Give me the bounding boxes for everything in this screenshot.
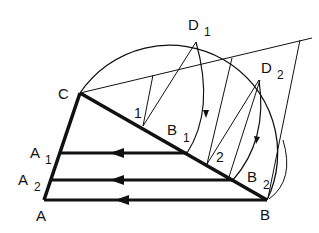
auxiliary-ray [80,38,312,93]
label-A: A [36,207,46,224]
label-A1-sub: 1 [45,153,52,167]
label-B2-sub: 2 [263,178,270,192]
label-B1: B [167,121,177,138]
label-D1: D [188,16,199,33]
label-B2: B [247,168,257,185]
label-A2: A [18,171,28,188]
geometry-diagram: C A A 1 A 2 B B 1 B 2 D 1 D 2 1 2 [0,0,319,233]
label-A2-sub: 2 [34,180,41,194]
label-D2: D [261,59,272,76]
label-point-2: 2 [216,149,224,165]
label-A1: A [30,144,40,161]
label-point-1: 1 [134,105,142,121]
label-B1-sub: 1 [183,131,190,145]
label-D2-sub: 2 [277,68,284,82]
label-C: C [58,85,69,102]
label-D1-sub: 1 [204,25,211,39]
segment-CA [44,93,80,200]
label-B: B [260,206,270,223]
